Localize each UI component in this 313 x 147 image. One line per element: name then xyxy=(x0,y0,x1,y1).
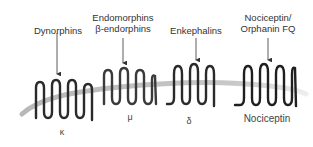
receptor-label-mu: μ xyxy=(125,112,135,122)
receptor-label-kappa: κ xyxy=(57,127,67,137)
ligand-text: Enkephalins xyxy=(170,25,222,36)
ligand-text-line2: β-endorphins xyxy=(86,23,160,34)
ligand-text: Dynorphins xyxy=(34,25,82,36)
ligand-text-line1: Nociceptin/ xyxy=(235,12,301,23)
cell-membrane xyxy=(22,82,306,114)
opioid-receptor-diagram: Dynorphins Endomorphins β-endorphins Enk… xyxy=(0,0,313,147)
ligand-label-endomorphins: Endomorphins β-endorphins xyxy=(86,12,160,34)
receptor-label-delta: δ xyxy=(184,116,194,126)
ligand-label-nociceptin: Nociceptin/ Orphanin FQ xyxy=(235,12,301,34)
ligand-text-line1: Endomorphins xyxy=(86,12,160,23)
receptor-label-nociceptin: Nociceptin xyxy=(236,113,298,124)
kappa-receptor xyxy=(36,80,92,120)
ligand-label-dynorphins: Dynorphins xyxy=(30,25,86,36)
ligand-label-enkephalins: Enkephalins xyxy=(166,25,226,36)
ligand-text-line2: Orphanin FQ xyxy=(235,23,301,34)
delta-receptor xyxy=(167,64,214,106)
